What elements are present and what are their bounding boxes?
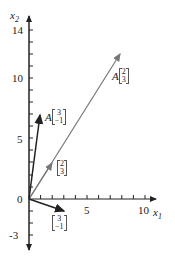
x-tick-10: 10 — [138, 205, 149, 216]
y-ticks — [29, 30, 33, 235]
y-axis-label: x2 — [10, 10, 19, 24]
label-a-2-3: A 23 — [112, 68, 129, 84]
y-tick-14: 14 — [12, 25, 23, 36]
y-tick-neg3: -3 — [9, 230, 18, 241]
vector-3-neg1 — [29, 199, 64, 211]
x-axis-label: x1 — [153, 207, 162, 221]
vector-plot — [0, 0, 175, 263]
y-tick-10: 10 — [12, 73, 23, 84]
label-3-neg1: 3−1 — [52, 215, 67, 231]
label-2-3: 23 — [57, 160, 67, 176]
label-a-3-neg1: A 3−1 — [45, 109, 66, 125]
x-ticks — [41, 195, 145, 199]
y-tick-0: 0 — [17, 194, 23, 205]
y-tick-5: 5 — [17, 134, 23, 145]
x-tick-5: 5 — [84, 205, 90, 216]
vector-a-3-neg1 — [29, 115, 40, 199]
